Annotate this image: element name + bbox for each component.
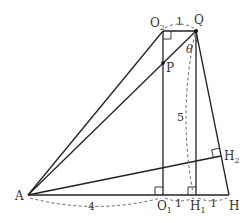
dim-Q-H1 xyxy=(186,34,195,193)
label-AO1-length: 4 xyxy=(88,200,95,213)
segment-A-Q xyxy=(28,31,196,195)
right-angle-O2 xyxy=(163,31,171,39)
label-H: H xyxy=(229,199,239,213)
label-H1H-length: 1 xyxy=(210,197,217,210)
label-A: A xyxy=(14,189,24,203)
point-Q-dot xyxy=(194,29,198,33)
segment-A-O2 xyxy=(28,31,163,195)
label-theta: θ xyxy=(186,43,193,56)
segment-Q-H xyxy=(196,31,229,195)
label-O1H1-length: 1 xyxy=(175,197,182,210)
label-O2Q-length: 1 xyxy=(176,15,183,28)
dim-A-O1 xyxy=(30,198,161,207)
label-O1: O1 xyxy=(157,199,172,215)
label-H1: H1 xyxy=(190,199,206,215)
label-O2: O2 xyxy=(150,16,165,32)
label-Q: Q xyxy=(194,13,204,27)
point-P-dot xyxy=(161,61,165,65)
right-angle-O1 xyxy=(155,187,163,195)
label-QH1-length: 5 xyxy=(177,111,184,124)
geometry-diagram: O2 Q 1 θ P 5 H2 A 4 O1 1 H1 1 H xyxy=(0,0,250,223)
label-H2: H2 xyxy=(224,149,240,165)
label-P: P xyxy=(166,61,174,75)
